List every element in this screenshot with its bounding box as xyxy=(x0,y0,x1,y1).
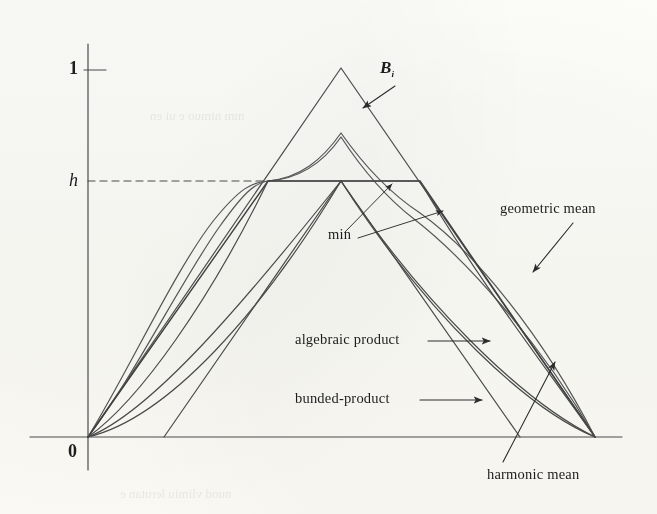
leader-line-geometric-mean xyxy=(533,223,573,272)
aggregation-operators-plot xyxy=(0,0,657,514)
label-b-curve: Bi xyxy=(380,58,394,79)
label-algebraic-product: algebraic product xyxy=(295,331,399,348)
y-axis-tick-label-h: h xyxy=(69,170,78,191)
label-geometric-mean: geometric mean xyxy=(500,200,596,217)
label-b-curve-subscript: i xyxy=(392,69,395,79)
origin-label: 0 xyxy=(68,441,77,462)
label-b-curve-text: B xyxy=(380,58,392,77)
label-harmonic-mean: harmonic mean xyxy=(487,466,579,483)
series-b-curve xyxy=(88,68,595,437)
label-min: min xyxy=(328,226,351,243)
y-axis-tick-label-one: 1 xyxy=(69,58,78,79)
leader-line-min-to-plateau xyxy=(345,184,392,232)
leader-line-harmonic-mean xyxy=(503,362,555,462)
figure-root: nuod vlimiu lerutan e mm nimuo e ui en xyxy=(0,0,657,514)
leader-line-b-curve xyxy=(363,86,395,108)
label-bunded-product: bunded-product xyxy=(295,390,390,407)
